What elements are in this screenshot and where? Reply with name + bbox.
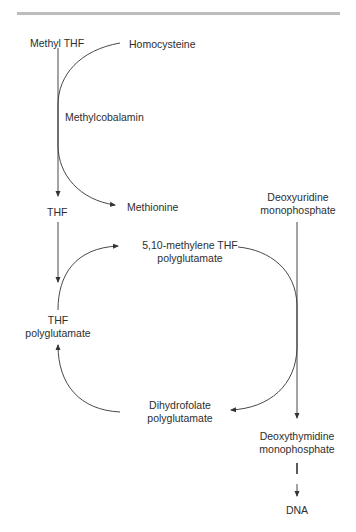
node-deoxythymidine-mp-line2: monophosphate: [250, 443, 344, 456]
node-dihydrofolate: Dihydrofolate polyglutamate: [135, 399, 225, 425]
node-deoxythymidine-mp: Deoxythymidine monophosphate: [250, 430, 344, 456]
node-methyl-thf: Methyl THF: [30, 37, 84, 50]
node-deoxyuridine-mp-line1: Deoxyuridine: [252, 191, 344, 204]
node-deoxythymidine-mp-line1: Deoxythymidine: [250, 430, 344, 443]
node-homocysteine: Homocysteine: [129, 38, 196, 51]
node-deoxyuridine-mp: Deoxyuridine monophosphate: [252, 191, 344, 217]
node-dihydrofolate-line1: Dihydrofolate: [135, 399, 225, 412]
node-methylcobalamin: Methylcobalamin: [65, 111, 144, 124]
node-methylene-thf-line1: 5,10-methylene THF: [125, 239, 255, 252]
node-thf-polyglutamate-line1: THF: [18, 314, 98, 327]
arrow-homocysteine-to-methionine: [58, 43, 120, 205]
node-dna: DNA: [284, 504, 310, 517]
node-dihydrofolate-line2: polyglutamate: [135, 412, 225, 425]
node-thf-polyglutamate-line2: polyglutamate: [18, 327, 98, 340]
node-thf-polyglutamate: THF polyglutamate: [18, 314, 98, 340]
arrow-methylene-to-dihydrofolate: [231, 247, 297, 410]
node-methylene-thf: 5,10-methylene THF polyglutamate: [125, 239, 255, 265]
node-thf: THF: [47, 206, 67, 219]
node-deoxyuridine-mp-line2: monophosphate: [252, 204, 344, 217]
node-methylene-thf-line2: polyglutamate: [125, 252, 255, 265]
node-methionine: Methionine: [127, 201, 178, 214]
arrow-thfpoly-to-methylene: [58, 246, 118, 310]
arrow-dihydrofolate-to-thfpoly: [58, 345, 120, 412]
